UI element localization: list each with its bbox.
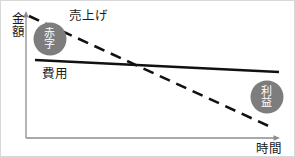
chart-canvas: 赤 字 利 益 売上げ 費用 金額 時間 <box>1 1 295 157</box>
series-label-sales: 売上げ <box>69 8 108 23</box>
profit-bubble-char-2: 益 <box>261 95 273 108</box>
break-even-chart: 赤 字 利 益 売上げ 費用 金額 時間 <box>0 0 295 157</box>
y-axis-arrow-icon <box>23 11 29 18</box>
annotation-bubble-profit: 利 益 <box>251 81 284 114</box>
series-label-cost: 費用 <box>42 66 68 81</box>
series-line-cost <box>35 60 279 72</box>
x-axis-label: 時間 <box>256 142 282 156</box>
x-axis-arrow-icon <box>274 135 281 141</box>
annotation-bubble-deficit: 赤 字 <box>34 23 67 56</box>
deficit-bubble-char-2: 字 <box>44 37 56 50</box>
y-axis-label: 金額 <box>9 11 23 38</box>
